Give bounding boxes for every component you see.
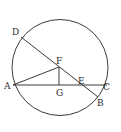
label-B: B: [97, 98, 104, 108]
label-A: A: [3, 81, 11, 91]
segment-AF: [13, 67, 59, 85]
label-D: D: [12, 27, 19, 37]
label-G: G: [56, 88, 63, 98]
label-C: C: [103, 82, 110, 92]
geometry-diagram: D F A G E C B: [0, 0, 121, 132]
label-F: F: [56, 56, 62, 66]
label-E: E: [78, 76, 85, 86]
